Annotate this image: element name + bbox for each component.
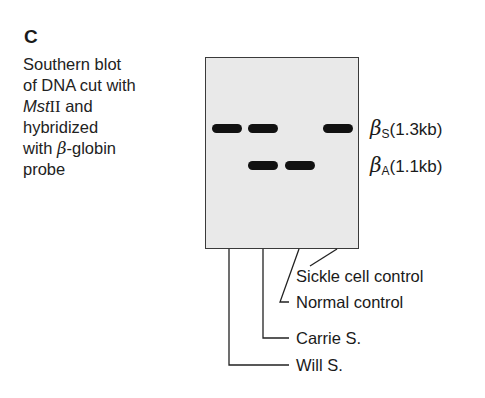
lane-leader-lines — [0, 0, 485, 398]
lane-label-will: Will S. — [296, 356, 343, 375]
lane-label-carrie: Carrie S. — [296, 329, 361, 348]
lane-label-normal-control: Normal control — [296, 293, 403, 312]
lane-label-sickle-control: Sickle cell control — [296, 267, 423, 286]
